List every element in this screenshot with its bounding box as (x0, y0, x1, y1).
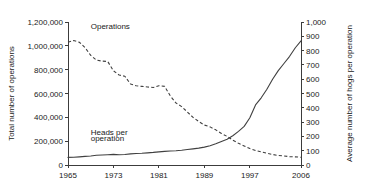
y-axis-left-tick-label: 800,000 (34, 66, 63, 75)
y-axis-right-tick-label: 200 (306, 132, 320, 141)
y-axis-right-tick-label: 0 (306, 161, 311, 170)
y-axis-right-tick-label: 1,000 (306, 18, 327, 27)
y-axis-right-title: Average number of hogs per operation (345, 25, 354, 162)
y-axis-left-tick-label: 0 (59, 161, 64, 170)
y-axis-right-tick-label: 400 (306, 104, 320, 113)
y-axis-right-tick-label: 700 (306, 61, 320, 70)
y-axis-left-tick-label: 400,000 (34, 113, 63, 122)
y-axis-left-title: Total number of operations (7, 46, 16, 141)
y-axis-left-tick-label: 600,000 (34, 90, 63, 99)
hog-operations-chart: 0200,000400,000600,000800,0001,000,0001,… (0, 0, 365, 191)
y-axis-right-tick-label: 300 (306, 118, 320, 127)
x-axis-tick-label: 1981 (150, 171, 168, 180)
series-annotation-label: Operations (91, 22, 130, 31)
x-axis-tick-label: 1965 (59, 171, 77, 180)
y-axis-right-tick-label: 600 (306, 75, 320, 84)
y-axis-right-tick-label: 100 (306, 147, 320, 156)
y-axis-right-tick-label: 500 (306, 90, 320, 99)
x-axis-tick-label: 2006 (292, 171, 310, 180)
y-axis-left-tick-label: 1,200,000 (27, 18, 63, 27)
y-axis-left-tick-label: 200,000 (34, 137, 63, 146)
x-axis-tick-label: 1973 (105, 171, 123, 180)
chart-container: 0200,000400,000600,000800,0001,000,0001,… (0, 0, 365, 191)
y-axis-right-tick-label: 800 (306, 47, 320, 56)
y-axis-right-tick-label: 900 (306, 32, 320, 41)
series-annotation-label: operation (91, 134, 124, 143)
x-axis-tick-label: 1989 (195, 171, 213, 180)
x-axis-tick-label: 1997 (241, 171, 259, 180)
y-axis-left-tick-label: 1,000,000 (27, 42, 63, 51)
